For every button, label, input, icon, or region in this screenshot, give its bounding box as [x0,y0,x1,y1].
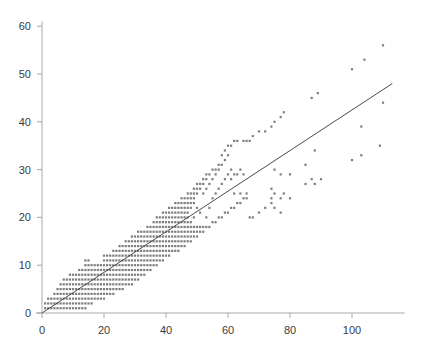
data-point [177,212,179,214]
data-point [122,283,124,285]
data-point [246,197,248,199]
data-point [100,264,102,266]
data-point [153,250,155,252]
data-point [280,173,282,175]
data-point [72,307,74,309]
data-point [363,59,365,61]
data-point [94,274,96,276]
data-point [289,197,291,199]
data-point [66,278,68,280]
data-point [103,293,105,295]
data-point [177,202,179,204]
data-point [84,278,86,280]
x-tick-label: 80 [284,324,296,336]
data-point [112,274,114,276]
data-point [78,307,80,309]
data-point [239,169,241,171]
data-point [125,245,127,247]
data-point [171,231,173,233]
data-point [94,293,96,295]
data-point [236,140,238,142]
data-point [75,293,77,295]
data-point [190,235,192,237]
data-point [187,231,189,233]
data-point [205,178,207,180]
data-point [118,274,120,276]
data-point [146,259,148,261]
data-point [60,293,62,295]
y-tick-label: 20 [19,211,31,223]
data-point [106,264,108,266]
data-point [190,207,192,209]
data-point [131,278,133,280]
data-point [193,216,195,218]
data-point [122,255,124,257]
data-point [137,240,139,242]
data-point [137,259,139,261]
data-point [94,269,96,271]
data-point [143,231,145,233]
data-point [208,207,210,209]
data-point [125,264,127,266]
data-point [53,293,55,295]
data-point [115,255,117,257]
data-point [128,259,130,261]
data-point [162,212,164,214]
data-point [134,245,136,247]
data-point [97,293,99,295]
data-point [84,302,86,304]
data-point [382,44,384,46]
data-point [184,221,186,223]
x-tick-label: 40 [160,324,172,336]
data-point [199,226,201,228]
data-point [171,245,173,247]
data-point [177,235,179,237]
data-point [314,183,316,185]
data-point [230,207,232,209]
data-point [87,298,89,300]
data-point [84,264,86,266]
data-point [159,245,161,247]
data-point [184,240,186,242]
data-point [187,197,189,199]
data-point [106,259,108,261]
data-point [202,183,204,185]
data-point [249,140,251,142]
data-point [149,259,151,261]
data-points [44,44,384,309]
data-point [224,178,226,180]
data-point [168,250,170,252]
data-point [128,264,130,266]
data-point [156,250,158,252]
data-point [100,298,102,300]
data-point [50,302,52,304]
data-point [131,269,133,271]
data-point [84,307,86,309]
data-point [190,192,192,194]
data-point [81,293,83,295]
data-point [106,278,108,280]
data-point [97,288,99,290]
data-point [273,207,275,209]
data-point [106,293,108,295]
data-point [202,178,204,180]
data-point [143,240,145,242]
data-point [190,231,192,233]
data-point [180,235,182,237]
data-point [211,197,213,199]
data-point [134,269,136,271]
data-point [165,235,167,237]
data-point [159,226,161,228]
data-point [196,207,198,209]
data-point [118,288,120,290]
data-point [205,173,207,175]
data-point [140,250,142,252]
data-point [221,154,223,156]
data-point [97,298,99,300]
data-point [211,221,213,223]
data-point [246,140,248,142]
data-point [131,283,133,285]
data-point [184,212,186,214]
data-point [171,250,173,252]
data-point [184,216,186,218]
